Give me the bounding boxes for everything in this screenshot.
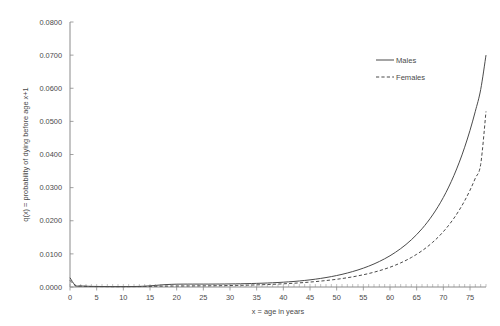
legend-label-males: Males — [396, 56, 416, 65]
x-tick-label: 55 — [359, 293, 367, 302]
x-tick-label: 70 — [439, 293, 447, 302]
y-tick-label: 0.0700 — [39, 51, 62, 60]
chart-figure: 0.00000.01000.02000.03000.04000.05000.06… — [0, 0, 500, 326]
x-tick-label: 40 — [279, 293, 287, 302]
y-axis-tick-labels: 0.00000.01000.02000.03000.04000.05000.06… — [39, 18, 62, 292]
y-tick-label: 0.0600 — [39, 84, 62, 93]
y-tick-label: 0.0300 — [39, 183, 62, 192]
x-tick-label: 65 — [413, 293, 421, 302]
x-tick-label: 30 — [226, 293, 234, 302]
x-tick-label: 45 — [306, 293, 314, 302]
x-tick-label: 15 — [146, 293, 154, 302]
chart-legend: Males Females — [376, 56, 425, 82]
y-tick-label: 0.0100 — [39, 250, 62, 259]
y-tick-label: 0.0800 — [39, 18, 62, 27]
y-tick-label: 0.0500 — [39, 117, 62, 126]
x-axis-title: x = age in years — [252, 307, 305, 316]
series-line-males — [70, 55, 486, 286]
x-tick-label: 60 — [386, 293, 394, 302]
x-tick-label: 10 — [119, 293, 127, 302]
mortality-curve-chart: 0.00000.01000.02000.03000.04000.05000.06… — [0, 0, 500, 326]
x-tick-label: 25 — [199, 293, 207, 302]
series-line-females — [70, 111, 486, 286]
y-tick-label: 0.0200 — [39, 216, 62, 225]
x-tick-label: 20 — [173, 293, 181, 302]
y-axis-tick-marks — [70, 22, 74, 287]
y-tick-label: 0.0000 — [39, 283, 62, 292]
x-axis-tick-labels: 051015202530354045505560657075 — [68, 293, 474, 302]
x-tick-label: 0 — [68, 293, 72, 302]
x-tick-label: 50 — [333, 293, 341, 302]
legend-label-females: Females — [396, 73, 425, 82]
x-tick-label: 5 — [95, 293, 99, 302]
x-tick-label: 35 — [253, 293, 261, 302]
x-tick-label: 75 — [466, 293, 474, 302]
y-tick-label: 0.0400 — [39, 150, 62, 159]
y-axis-title: q(x) = probability of dying before age x… — [21, 87, 30, 221]
